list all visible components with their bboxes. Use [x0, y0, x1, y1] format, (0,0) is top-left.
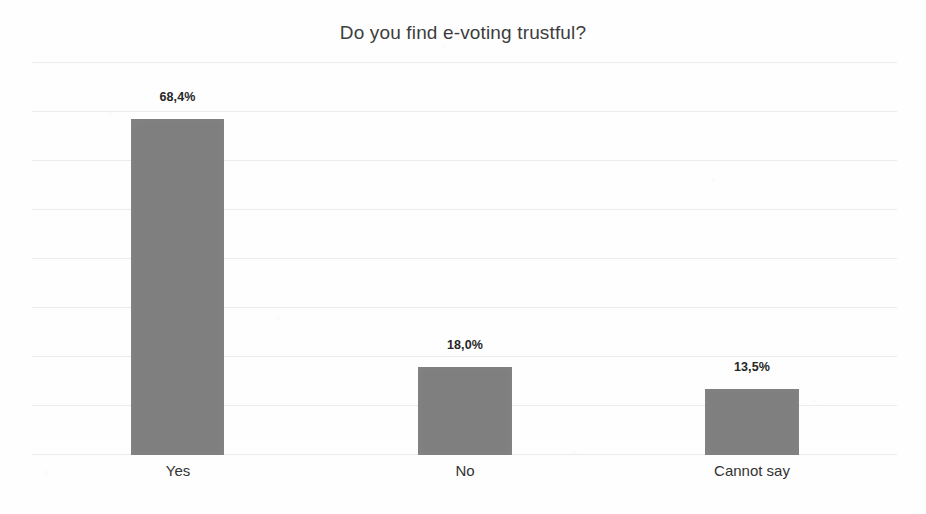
gridline-80 [32, 62, 897, 63]
chart-title: Do you find e-voting trustful? [0, 22, 926, 44]
bar-cannot-say[interactable] [705, 389, 799, 455]
category-label-no: No [400, 462, 530, 479]
category-label-cannot-say: Cannot say [687, 462, 817, 479]
bar-value-label-cannot-say: 13,5% [705, 360, 799, 374]
gridline-70 [32, 111, 897, 112]
bar-value-label-yes: 68,4% [131, 90, 224, 104]
chart-container: Do you find e-voting trustful? 68,4% 18,… [0, 0, 926, 514]
bar-yes[interactable] [131, 119, 224, 455]
category-label-yes: Yes [113, 462, 243, 479]
bar-value-label-no: 18,0% [418, 338, 512, 352]
bar-no[interactable] [418, 367, 512, 455]
